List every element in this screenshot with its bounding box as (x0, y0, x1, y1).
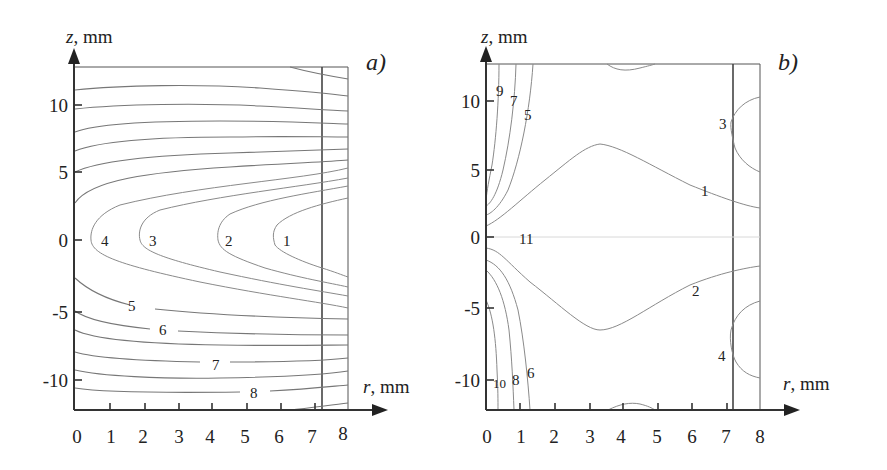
contour-label: 9 (496, 83, 504, 99)
y-ticks-a: 10 5 0 -5 -10 (43, 95, 82, 391)
y-tick-label: 10 (461, 91, 480, 112)
contour-label: 4 (718, 348, 726, 364)
panel-a: 4 3 2 1 5 6 7 8 10 5 0 -5 -10 (43, 26, 410, 447)
contours-lower (75, 278, 348, 410)
y-tick-label: -5 (52, 302, 68, 323)
x-tick-label: 7 (721, 426, 731, 447)
x-tick-label: 4 (205, 426, 215, 447)
contours-nested (91, 168, 348, 308)
y-tick-label: 5 (59, 162, 69, 183)
contours-upper (75, 67, 348, 203)
x-axis-arrow-icon (784, 404, 800, 416)
x-tick-label: 3 (585, 426, 595, 447)
contours-upper-left (486, 64, 760, 226)
x-tick-label: 3 (174, 426, 184, 447)
x-tick-label: 6 (274, 426, 284, 447)
contour-label: 2 (225, 233, 233, 249)
x-tick-label: 5 (652, 426, 662, 447)
x-tick-label: 2 (549, 426, 559, 447)
contour (607, 64, 655, 70)
contour-label: 1 (283, 233, 291, 249)
panel-b: 9 7 5 1 3 11 2 4 10 8 6 10 5 0 -5 -10 (455, 26, 830, 447)
panel-label-b: b) (778, 49, 798, 75)
contour-label: 8 (250, 385, 258, 401)
contours-lower-left (486, 248, 760, 410)
contour-label: 2 (692, 283, 700, 299)
contour (608, 403, 655, 410)
y-tick-label: 5 (471, 160, 481, 181)
contour-label: 10 (493, 376, 506, 391)
y-tick-label: 0 (471, 227, 481, 248)
contour-label: 7 (510, 93, 518, 109)
y-axis-label: z, mm (65, 26, 113, 47)
contour-label: 5 (128, 298, 136, 314)
y-axis-label: z, mm (480, 26, 528, 47)
x-tick-label: 8 (755, 426, 765, 447)
contour-label: 1 (701, 183, 709, 199)
x-tick-label: 0 (482, 426, 492, 447)
x-tick-label: 5 (240, 426, 250, 447)
contour-label: 7 (212, 357, 220, 373)
y-tick-label: -10 (43, 370, 68, 391)
figure: 4 3 2 1 5 6 7 8 10 5 0 -5 -10 (0, 0, 887, 470)
contour-label: 5 (524, 107, 532, 123)
y-ticks-b: 10 5 0 -5 -10 (455, 91, 494, 391)
contour-label: 11 (519, 231, 533, 247)
y-axis-arrow-icon (480, 46, 492, 62)
contour-label: 4 (101, 233, 109, 249)
y-tick-label: -10 (455, 370, 480, 391)
contour-label: 3 (149, 233, 157, 249)
x-tick-label: 7 (307, 426, 317, 447)
x-axis-label: r, mm (363, 376, 410, 397)
panel-label-a: a) (366, 49, 386, 75)
y-tick-label: 10 (49, 95, 68, 116)
contour (731, 97, 760, 172)
contour-label: 3 (719, 116, 727, 132)
x-tick-label: 0 (72, 426, 82, 447)
y-tick-label: -5 (464, 298, 480, 319)
contour-label: 6 (527, 365, 535, 381)
contour (730, 301, 760, 378)
x-tick-label: 1 (516, 426, 526, 447)
contour-label: 6 (159, 322, 167, 338)
x-tick-label: 4 (616, 426, 626, 447)
contour-label: 8 (512, 372, 520, 388)
y-tick-label: 0 (59, 230, 69, 251)
x-axis-arrow-icon (372, 404, 388, 416)
x-tick-label: 1 (106, 426, 116, 447)
y-axis-arrow-icon (68, 48, 80, 64)
x-tick-label: 6 (687, 426, 697, 447)
x-axis-label: r, mm (783, 373, 830, 394)
x-tick-label: 2 (138, 426, 148, 447)
x-tick-label: 8 (338, 423, 348, 444)
